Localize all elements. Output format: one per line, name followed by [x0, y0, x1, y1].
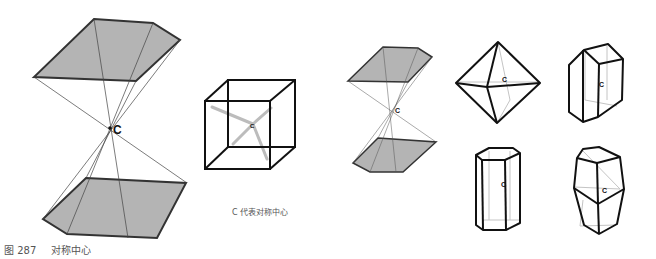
svg-text:C: C — [501, 181, 506, 188]
cube-diagram: C — [205, 80, 295, 169]
prism-crystal-diagram: C — [569, 44, 623, 122]
hexagonal-prism-diagram: C — [476, 148, 520, 230]
large-inverted-pyramids: C — [34, 19, 187, 238]
octahedron-diagram: C — [456, 42, 540, 123]
double-terminated-crystal-diagram: C — [574, 147, 624, 234]
svg-text:C: C — [502, 76, 507, 83]
figure-caption: 图 287 对称中心 — [4, 242, 91, 257]
svg-text:C: C — [250, 123, 255, 129]
figure-title: 对称中心 — [51, 245, 91, 256]
center-legend: C 代表对称中心 — [232, 206, 288, 217]
svg-text:C: C — [599, 81, 604, 88]
small-inverted-pyramids: C — [348, 47, 436, 172]
svg-text:C: C — [395, 107, 400, 114]
svg-text:C: C — [602, 187, 607, 194]
svg-text:C: C — [113, 123, 122, 137]
figure-number: 图 287 — [4, 245, 36, 256]
figure-illustration: C C C — [0, 0, 656, 259]
